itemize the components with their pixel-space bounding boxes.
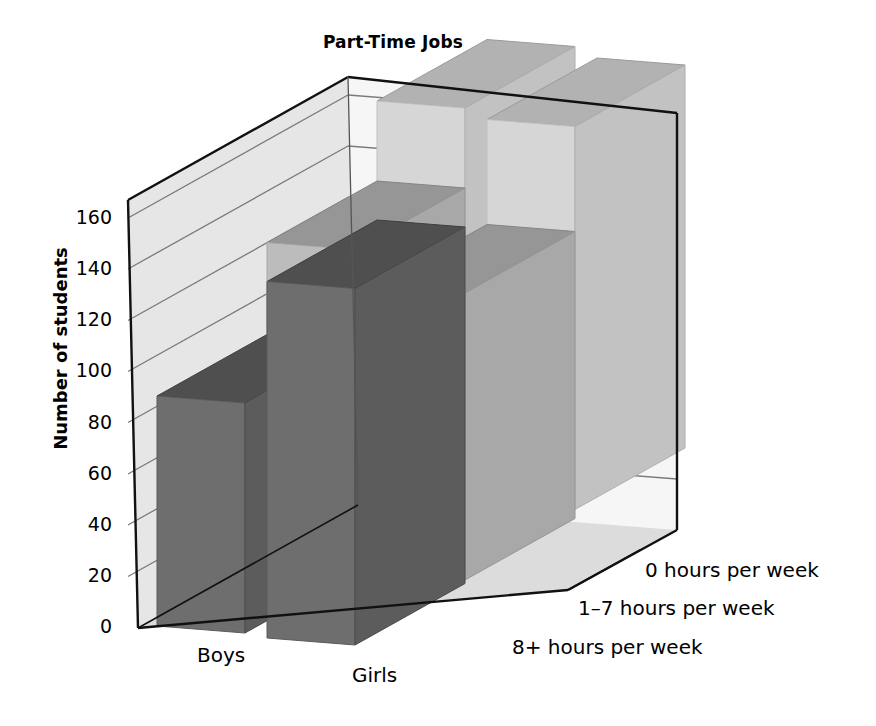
bar-0hours-girls-side xyxy=(575,65,685,510)
bar-8plushours-boys-front xyxy=(157,396,245,633)
bar-8plushours-girls-side xyxy=(355,227,465,645)
bar-1to7hours-girls-side xyxy=(465,232,575,581)
chart-3d-bar-graphic xyxy=(0,0,876,726)
bar-8plushours-girls-front xyxy=(267,282,355,646)
bar-8plushours-girls[interactable] xyxy=(267,220,465,645)
chart-container: Part-Time Jobs Number of students 160 14… xyxy=(0,0,876,726)
